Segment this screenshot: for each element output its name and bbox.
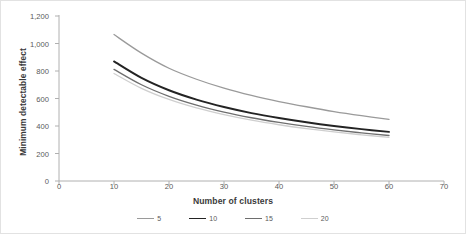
legend-swatch-icon: [137, 218, 154, 219]
legend-label: 15: [265, 215, 273, 222]
legend-item-10[interactable]: 10: [189, 215, 217, 222]
chart-legend: 5101520: [1, 215, 465, 222]
legend-label: 10: [209, 215, 217, 222]
x-axis-title: Number of clusters: [1, 196, 465, 206]
x-axis-tick-label: 10: [99, 182, 129, 191]
legend-item-20[interactable]: 20: [301, 215, 329, 222]
x-axis-tick-label: 0: [44, 182, 74, 191]
axes: [55, 15, 444, 185]
x-axis-tick-label: 20: [154, 182, 184, 191]
series-lines: [114, 35, 389, 138]
y-axis-tick-label: 200: [5, 149, 49, 158]
legend-swatch-icon: [245, 218, 262, 219]
x-axis-tick-label: 70: [429, 182, 459, 191]
series-line-5: [114, 35, 389, 120]
legend-swatch-icon: [189, 218, 206, 219]
x-axis-tick-label: 40: [264, 182, 294, 191]
y-axis-tick-label: 0: [5, 177, 49, 186]
y-axis-tick-label: 1,200: [5, 12, 49, 21]
y-axis-tick-label: 1,000: [5, 39, 49, 48]
series-line-10: [114, 61, 389, 132]
legend-label: 5: [157, 215, 161, 222]
y-axis-tick-label: 800: [5, 67, 49, 76]
chart-figure: Minimum detectable effect 02004006008001…: [0, 0, 466, 234]
x-axis-tick-label: 60: [374, 182, 404, 191]
legend-label: 20: [321, 215, 329, 222]
legend-item-15[interactable]: 15: [245, 215, 273, 222]
legend-swatch-icon: [301, 218, 318, 219]
x-axis-tick-label: 30: [209, 182, 239, 191]
series-line-15: [114, 69, 389, 135]
y-axis-tick-label: 400: [5, 122, 49, 131]
legend-item-5[interactable]: 5: [137, 215, 161, 222]
y-axis-tick-label: 600: [5, 94, 49, 103]
x-axis-tick-label: 50: [319, 182, 349, 191]
